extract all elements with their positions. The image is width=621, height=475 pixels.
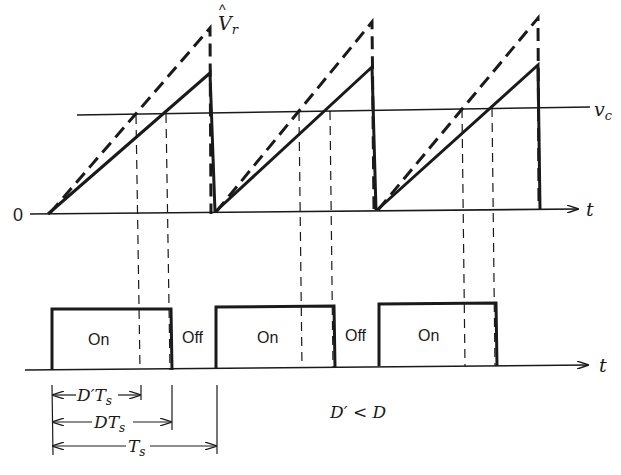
on-label-3: On	[418, 327, 439, 344]
solid-sawtooth	[48, 65, 540, 214]
condition-note: D′ < D	[329, 402, 387, 422]
on-label-1: On	[88, 331, 109, 348]
dashed-sawtooth	[50, 18, 539, 214]
time-axis-bottom	[25, 365, 588, 370]
control-voltage-line	[77, 107, 590, 115]
dprime-ts-label: D′Ts	[76, 385, 112, 408]
lower-plot: t On Off On Off On	[25, 303, 607, 376]
peak-hat: ^	[219, 2, 226, 18]
on-label-2: On	[257, 329, 278, 346]
time-label-top: t	[586, 198, 594, 220]
upper-plot: 0 t vc Vr ^	[13, 2, 613, 225]
dimensions: D′Ts DTs Ts D′ < D	[52, 385, 387, 459]
off-label-1: Off	[182, 329, 204, 346]
time-label-bottom: t	[599, 354, 607, 376]
origin-label: 0	[13, 205, 23, 225]
pwm-diagram: 0 t vc Vr ^ t	[0, 0, 621, 475]
d-ts-label: DTs	[93, 412, 125, 435]
ts-label: Ts	[128, 436, 146, 459]
time-axis-top	[30, 209, 578, 214]
control-voltage-label: vc	[594, 98, 613, 123]
off-label-2: Off	[345, 327, 367, 344]
